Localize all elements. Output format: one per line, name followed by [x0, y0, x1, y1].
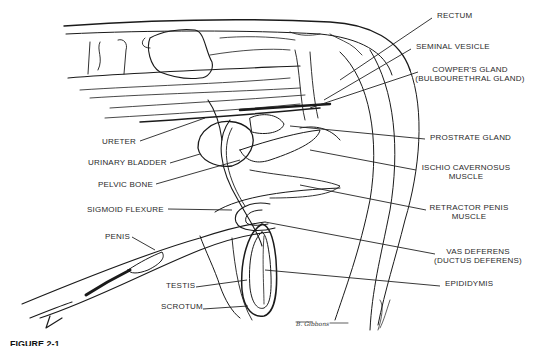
- label-ischio-cavernosus-muscle: ISCHIO CAVERNOSUS MUSCLE: [418, 163, 514, 181]
- label-vas-deferens: VAS DEFERENS (DUCTUS DEFERENS): [428, 247, 528, 265]
- rectum-and-muscles: [80, 50, 330, 122]
- label-epididymis: EPIDIDYMIS: [445, 279, 493, 288]
- penis-shape: [22, 222, 270, 328]
- label-testis: TESTIS: [166, 281, 195, 290]
- label-sigmoid-flexure: SIGMOID FLEXURE: [87, 205, 164, 214]
- label-retractor-penis-muscle: RETRACTOR PENIS MUSCLE: [428, 203, 510, 221]
- vas-deferens-duct: [221, 120, 262, 246]
- vertebral-column: [64, 20, 410, 79]
- label-pelvic-bone: PELVIC BONE: [98, 180, 153, 189]
- label-urinary-bladder: URINARY BLADDER: [88, 158, 167, 167]
- label-seminal-vesicle: SEMINAL VESICLE: [416, 42, 490, 51]
- figure-caption: FIGURE 2-1: [10, 339, 60, 346]
- label-cowpers-gland: COWPER'S GLAND (BULBOURETHRAL GLAND): [410, 65, 530, 83]
- testis-scrotum-shape: [232, 224, 277, 320]
- label-penis: PENIS: [105, 232, 130, 241]
- label-prostrate-gland: PROSTRATE GLAND: [430, 133, 511, 142]
- body-outline: [335, 50, 419, 330]
- label-rectum: RECTUM: [437, 11, 472, 20]
- label-scrotum: SCROTUM: [161, 302, 203, 311]
- artist-signature: B. Gibbons: [296, 320, 329, 327]
- label-ureter: URETER: [102, 137, 136, 146]
- pelvic-bone-shape: [250, 170, 340, 198]
- bladder-and-glands: [198, 100, 340, 166]
